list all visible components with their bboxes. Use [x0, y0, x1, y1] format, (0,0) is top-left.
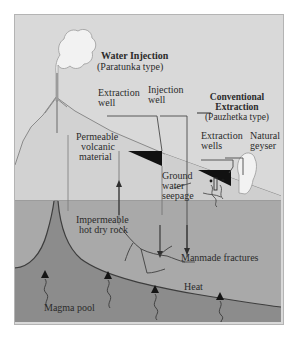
extraction-well-label-line2: well: [98, 98, 115, 108]
manmade-fractures-label: Manmade fractures: [181, 253, 258, 263]
water-injection-title: Water Injection: [101, 51, 168, 61]
magma-pool-label: Magma pool: [44, 303, 95, 313]
water-injection-subtitle: (Paratunka type): [97, 62, 163, 72]
wellhead-marker-3: [210, 180, 213, 183]
permeable-label-line3: material: [79, 152, 112, 162]
heat-label: Heat: [184, 282, 203, 292]
figure-root: Water Injection (Paratunka type) Extract…: [0, 0, 296, 337]
wellhead-marker-2: [221, 178, 224, 181]
injection-well-label-line2: well: [148, 95, 165, 105]
conventional-subtitle: (Pauzhetka type): [194, 113, 280, 123]
ground-water-label-line3: seepage: [162, 191, 194, 201]
figure-frame: Water Injection (Paratunka type) Extract…: [14, 14, 284, 325]
natural-geyser-label-line2: geyser: [250, 141, 276, 151]
extraction-wells-label-line2: wells: [201, 141, 222, 151]
impermeable-label-line2: hot dry rock: [79, 225, 128, 235]
